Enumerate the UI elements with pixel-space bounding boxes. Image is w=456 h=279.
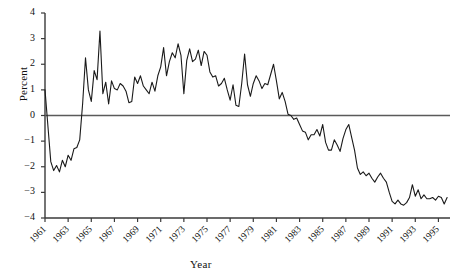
y-tick-label: −2 — [19, 160, 35, 171]
x-axis-title: Year — [190, 258, 212, 270]
y-tick-label: −3 — [19, 185, 35, 196]
y-tick-label: −1 — [19, 134, 35, 145]
chart-figure: 43210−1−2−3−4 19611963196519671969197119… — [0, 0, 456, 279]
y-tick-label: 4 — [19, 6, 35, 17]
y-axis-title: Percent — [17, 39, 29, 129]
y-tick-label: −4 — [19, 211, 35, 222]
data-series-line — [45, 31, 447, 205]
